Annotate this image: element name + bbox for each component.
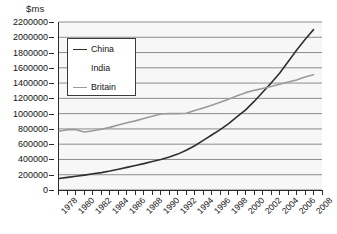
x-tick-mark — [135, 190, 136, 195]
x-tick-mark — [279, 190, 280, 195]
x-tick-mark — [160, 190, 161, 195]
x-tick-mark — [203, 190, 204, 195]
x-tick-mark — [143, 190, 144, 195]
y-tick-label: 200000 — [18, 170, 48, 179]
y-tick-mark — [49, 53, 54, 54]
x-tick-mark — [322, 190, 323, 195]
y-tick-mark — [49, 190, 54, 191]
y-tick-label: 1400000 — [13, 79, 48, 88]
x-tick-mark — [92, 190, 93, 195]
x-tick-label: 1984 — [110, 196, 130, 216]
x-tick-label: 1988 — [144, 196, 164, 216]
x-tick-label: 1992 — [178, 196, 198, 216]
y-tick-mark — [49, 83, 54, 84]
y-tick-mark — [49, 144, 54, 145]
x-tick-mark — [220, 190, 221, 195]
x-tick-label: 2004 — [280, 196, 300, 216]
x-tick-label: 1978 — [59, 196, 79, 216]
x-tick-label: 1996 — [212, 196, 232, 216]
y-tick-label: 1800000 — [13, 48, 48, 57]
x-tick-label: 2008 — [314, 196, 334, 216]
x-axis-tick-labels: 1978198019821984198619881990199219941996… — [58, 196, 337, 234]
x-tick-mark — [109, 190, 110, 195]
x-tick-label: 2002 — [263, 196, 283, 216]
line-chart: $ms 020000040000060000080000010000001200… — [0, 0, 337, 234]
y-tick-mark — [49, 37, 54, 38]
x-tick-mark — [305, 190, 306, 195]
x-tick-mark — [186, 190, 187, 195]
x-tick-label: 2006 — [297, 196, 317, 216]
x-tick-mark — [67, 190, 68, 195]
y-tick-mark — [49, 114, 54, 115]
y-tick-label: 1600000 — [13, 63, 48, 72]
chart-legend: ChinaIndiaBritain — [67, 38, 136, 96]
x-tick-label: 1994 — [195, 196, 215, 216]
x-tick-label: 1982 — [93, 196, 113, 216]
y-tick-label: 800000 — [18, 124, 48, 133]
y-tick-mark — [49, 159, 54, 160]
y-tick-mark — [49, 129, 54, 130]
x-tick-mark — [126, 190, 127, 195]
y-tick-mark — [49, 175, 54, 176]
legend-label: Britain — [91, 83, 116, 92]
x-tick-mark — [271, 190, 272, 195]
x-tick-mark — [194, 190, 195, 195]
y-tick-label: 2200000 — [13, 18, 48, 27]
x-tick-label: 1998 — [229, 196, 249, 216]
x-tick-mark — [254, 190, 255, 195]
x-tick-mark — [296, 190, 297, 195]
x-tick-mark — [237, 190, 238, 195]
y-tick-label: 1200000 — [13, 94, 48, 103]
y-tick-mark — [49, 98, 54, 99]
x-tick-mark — [262, 190, 263, 195]
y-axis-tick-labels: 0200000400000600000800000100000012000001… — [0, 22, 54, 190]
x-tick-mark — [177, 190, 178, 195]
x-tick-mark — [313, 190, 314, 195]
y-tick-label: 1000000 — [13, 109, 48, 118]
x-tick-mark — [211, 190, 212, 195]
y-tick-mark — [49, 68, 54, 69]
y-tick-label: 600000 — [18, 140, 48, 149]
x-tick-mark — [169, 190, 170, 195]
x-tick-mark — [84, 190, 85, 195]
legend-swatch-china — [73, 49, 87, 50]
x-tick-mark — [118, 190, 119, 195]
y-axis-title: $ms — [26, 3, 45, 14]
legend-swatch-britain — [73, 87, 87, 88]
x-tick-label: 1980 — [76, 196, 96, 216]
y-tick-label: 400000 — [18, 155, 48, 164]
x-tick-mark — [245, 190, 246, 195]
x-tick-mark — [75, 190, 76, 195]
y-tick-label: 2000000 — [13, 33, 48, 42]
x-axis-tick-marks — [58, 190, 322, 195]
x-tick-mark — [58, 190, 59, 195]
legend-item-india: India — [68, 59, 135, 78]
x-tick-label: 1986 — [127, 196, 147, 216]
x-tick-mark — [288, 190, 289, 195]
x-tick-mark — [152, 190, 153, 195]
x-tick-label: 1990 — [161, 196, 181, 216]
legend-label: China — [91, 45, 114, 54]
legend-item-britain: Britain — [68, 78, 135, 97]
x-tick-label: 2000 — [246, 196, 266, 216]
x-tick-mark — [101, 190, 102, 195]
y-tick-mark — [49, 22, 54, 23]
y-tick-label: 0 — [43, 186, 48, 195]
legend-item-china: China — [68, 40, 135, 59]
legend-label: India — [91, 64, 110, 73]
x-tick-mark — [228, 190, 229, 195]
